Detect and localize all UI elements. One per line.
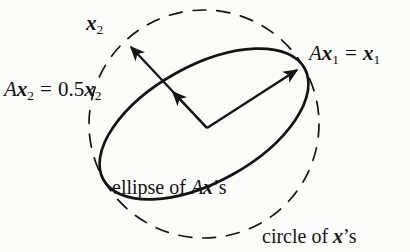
diagram-canvas — [0, 0, 410, 252]
label-ax2-equals: = — [40, 77, 52, 101]
label-ax1-vector: x — [322, 41, 333, 65]
label-ax2-result-subscript: 2 — [95, 88, 102, 103]
label-ax2-subscript: 2 — [27, 88, 34, 103]
caption-circle-prefix: circle of — [262, 225, 333, 247]
caption-circle-vector: x — [333, 225, 343, 247]
caption-circle-suffix: ’s — [343, 225, 356, 247]
caption-ellipse-suffix: ’s — [213, 176, 226, 198]
caption-ellipse-vector: x — [203, 176, 213, 198]
label-ax1-result-subscript: 1 — [373, 52, 380, 67]
caption-circle-of-xs: circle of x’s — [262, 226, 356, 246]
eigenvector-diagram: x2 Ax2=0.5x2 Ax1=x1 ellipse of Ax’s circ… — [0, 0, 410, 252]
vector-ax2 — [173, 92, 207, 128]
label-ax1-matrix: A — [309, 41, 322, 65]
label-ax2-result-vector: x — [84, 77, 95, 101]
label-x2-vector: x — [86, 11, 97, 35]
label-ax2-vector: x — [17, 77, 28, 101]
caption-ellipse-of-axs: ellipse of Ax’s — [112, 177, 226, 197]
label-x2: x2 — [86, 13, 103, 36]
label-ax1-result-vector: x — [363, 41, 374, 65]
label-ax1-equation: Ax1=x1 — [309, 43, 380, 66]
caption-ellipse-prefix: ellipse of — [112, 176, 191, 198]
label-ax1-equals: = — [345, 41, 357, 65]
label-ax1-subscript: 1 — [332, 52, 339, 67]
label-ax2-scalar: 0.5 — [58, 77, 84, 101]
label-ax2-equation: Ax2=0.5x2 — [4, 79, 101, 102]
vector-ax1 — [207, 70, 297, 128]
label-x2-subscript: 2 — [97, 22, 104, 37]
caption-ellipse-matrix: A — [191, 176, 203, 198]
label-ax2-matrix: A — [4, 77, 17, 101]
